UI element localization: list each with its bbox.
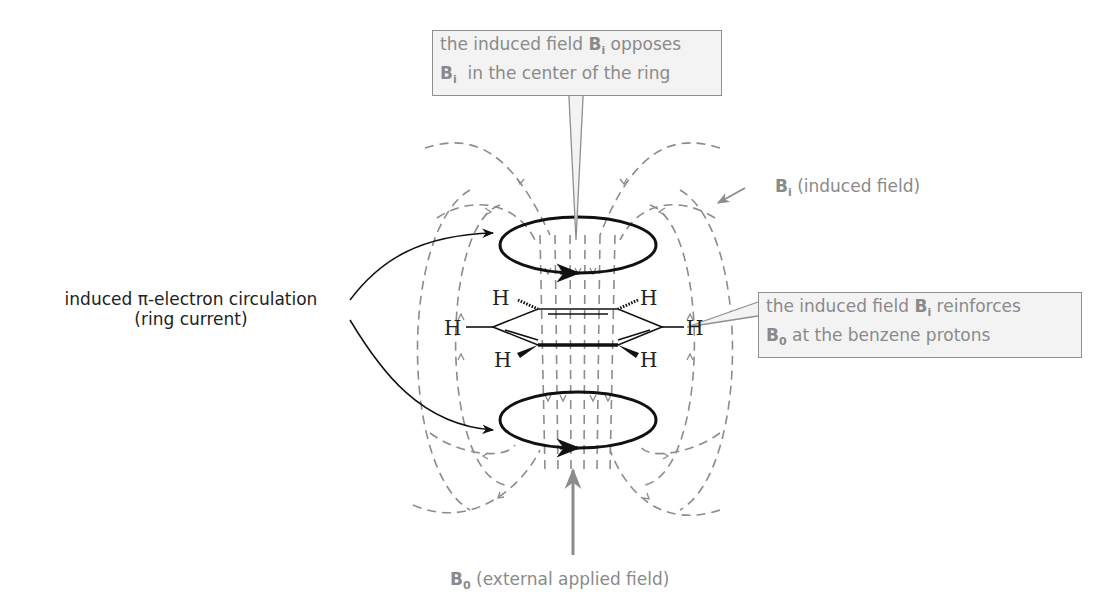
label-ring-current: induced π-electron circulation (ring cur… — [36, 289, 346, 329]
callout-reinforces: the induced field Bi reinforces B0 at th… — [758, 292, 1082, 358]
symbol-bi: Bi — [775, 176, 792, 196]
hydrogen-lower-left: H — [494, 348, 511, 372]
lower-ring-current — [500, 392, 656, 448]
symbol-bi: Bi — [588, 34, 605, 54]
callout-reinforces-line1: the induced field Bi reinforces — [766, 295, 1074, 324]
pointer-to-upper-ring — [350, 233, 493, 300]
symbol-b0: B0 — [450, 569, 471, 589]
callout-reinforces-line2: B0 at the benzene protons — [766, 324, 1074, 353]
hydrogen-left: H — [444, 316, 461, 340]
hydrogen-upper-right: H — [640, 286, 657, 310]
pointer-to-lower-ring — [350, 320, 493, 430]
ring-current-loops — [500, 217, 656, 448]
induced-field-pointer-icon — [718, 188, 745, 203]
label-external-field: B0 (external applied field) — [450, 569, 669, 592]
callout-opposes-line2: Bi in the center of the ring — [440, 62, 714, 91]
callout-opposes-line1: the induced field Bi opposes — [440, 33, 714, 62]
callout-opposes: the induced field Bi opposes Bi in the c… — [432, 30, 722, 96]
hydrogen-right: H — [686, 316, 703, 340]
hydrogen-upper-left: H — [492, 286, 509, 310]
symbol-bi: Bi — [914, 296, 931, 316]
hydrogen-lower-right: H — [640, 348, 657, 372]
label-induced-field: Bi (induced field) — [775, 176, 920, 199]
upper-ring-current — [500, 217, 656, 273]
wedge-bond-left — [517, 345, 538, 358]
wedge-bond-right — [618, 345, 639, 358]
symbol-b0: B0 — [766, 325, 787, 345]
symbol-bi: Bi — [440, 63, 457, 83]
